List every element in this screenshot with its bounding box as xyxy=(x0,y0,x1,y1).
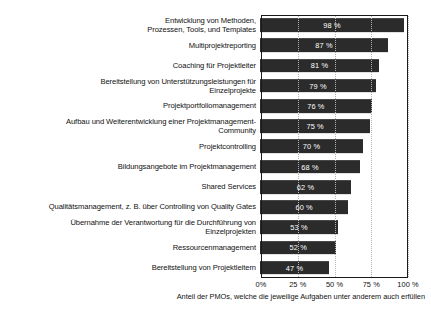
bar: 62 % xyxy=(260,180,351,194)
x-tick-label: 100 % xyxy=(397,280,418,290)
bar-row: Ressourcenmanagement52 % xyxy=(0,237,431,257)
bar-cell: 76 % xyxy=(260,96,407,116)
bar: 98 % xyxy=(260,18,404,32)
bar-value-label: 81 % xyxy=(260,61,379,70)
category-label: Ressourcenmanagement xyxy=(0,243,260,252)
bar-value-label: 70 % xyxy=(260,142,363,151)
bar-value-label: 60 % xyxy=(260,203,348,212)
bar: 87 % xyxy=(260,38,388,52)
bar-cell: 60 % xyxy=(260,197,407,217)
bar-value-label: 79 % xyxy=(260,81,376,90)
category-label: Coaching für Projektleiter xyxy=(0,61,260,70)
bar-value-label: 76 % xyxy=(260,101,372,110)
bar-row: Bildungsangebote im Projektmanagement68 … xyxy=(0,157,431,177)
category-label: Aufbau und Weiterentwicklung einer Proje… xyxy=(0,117,260,135)
bar-cell: 87 % xyxy=(260,35,407,55)
bar: 75 % xyxy=(260,119,370,133)
bar-cell: 75 % xyxy=(260,116,407,136)
bar: 60 % xyxy=(260,200,348,214)
bar-cell: 70 % xyxy=(260,136,407,156)
category-label: Shared Services xyxy=(0,182,260,191)
category-label: Qualitätsmanagement, z. B. über Controll… xyxy=(0,202,260,211)
bar-row: Shared Services62 % xyxy=(0,177,431,197)
bar-cell: 98 % xyxy=(260,15,407,35)
x-tick-label: 25 % xyxy=(289,280,306,290)
x-tick-label: 75 % xyxy=(363,280,380,290)
x-axis-label: Anteil der PMOs, welche die jeweilige Au… xyxy=(0,292,425,302)
bar-value-label: 47 % xyxy=(260,263,329,272)
x-tick-label: 0% xyxy=(256,280,267,290)
bar-row: Bereitstellung von Projektleitern47 % xyxy=(0,258,431,278)
category-label: Projektcontrolling xyxy=(0,142,260,151)
bar-row: Projektportfoliomanagement76 % xyxy=(0,96,431,116)
bar-cell: 79 % xyxy=(260,76,407,96)
bar: 79 % xyxy=(260,79,376,93)
x-tick-label: 50 % xyxy=(326,280,343,290)
bar-row: Übernahme der Verantwortung für die Durc… xyxy=(0,217,431,237)
category-label: Bereitstellung von Projektleitern xyxy=(0,263,260,272)
bar: 52 % xyxy=(260,241,336,255)
category-label: Bildungsangebote im Projektmanagement xyxy=(0,162,260,171)
bar-value-label: 98 % xyxy=(260,21,404,30)
bar-row: Entwicklung von Methoden, Prozessen, Too… xyxy=(0,15,431,35)
bar-value-label: 87 % xyxy=(260,41,388,50)
bar-value-label: 68 % xyxy=(260,162,360,171)
bar: 47 % xyxy=(260,261,329,275)
bar-value-label: 52 % xyxy=(260,243,336,252)
bar-row: Bereitstellung von Unterstützungsleistun… xyxy=(0,76,431,96)
bar: 76 % xyxy=(260,99,372,113)
horizontal-bar-chart: Entwicklung von Methoden, Prozessen, Too… xyxy=(0,0,431,310)
bar-cell: 81 % xyxy=(260,55,407,75)
bar-value-label: 75 % xyxy=(260,122,370,131)
bar-value-label: 53 % xyxy=(260,223,338,232)
category-label: Projektportfoliomanagement xyxy=(0,101,260,110)
category-label: Multiprojektreporting xyxy=(0,41,260,50)
bar-cell: 53 % xyxy=(260,217,407,237)
bar-row: Projektcontrolling70 % xyxy=(0,136,431,156)
x-axis: 0%25 %50 %75 %100 % xyxy=(261,280,408,292)
bar-row: Multiprojektreporting87 % xyxy=(0,35,431,55)
bar-row: Qualitätsmanagement, z. B. über Controll… xyxy=(0,197,431,217)
category-label: Bereitstellung von Unterstützungsleistun… xyxy=(0,77,260,95)
category-label: Entwicklung von Methoden, Prozessen, Too… xyxy=(0,16,260,34)
bar-value-label: 62 % xyxy=(260,182,351,191)
bar: 68 % xyxy=(260,160,360,174)
bar: 70 % xyxy=(260,140,363,154)
category-label: Übernahme der Verantwortung für die Durc… xyxy=(0,218,260,236)
bar: 53 % xyxy=(260,220,338,234)
bar-cell: 52 % xyxy=(260,237,407,257)
bar-row: Coaching für Projektleiter81 % xyxy=(0,55,431,75)
bar-cell: 47 % xyxy=(260,258,407,278)
bar: 81 % xyxy=(260,59,379,73)
bar-row: Aufbau und Weiterentwicklung einer Proje… xyxy=(0,116,431,136)
bar-cell: 68 % xyxy=(260,157,407,177)
chart-rows: Entwicklung von Methoden, Prozessen, Too… xyxy=(0,15,431,278)
bar-cell: 62 % xyxy=(260,177,407,197)
